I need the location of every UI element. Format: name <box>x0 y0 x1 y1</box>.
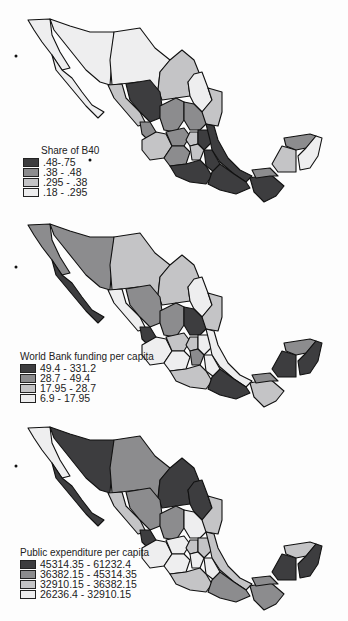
legend-swatch <box>23 158 39 167</box>
legend-swatch <box>20 374 36 383</box>
state-zacatecas <box>160 303 184 337</box>
legend-title: Public expenditure per capita <box>20 548 149 558</box>
legend-swatch <box>20 384 36 393</box>
legend-swatch <box>23 168 39 177</box>
state-zacatecas <box>160 98 184 132</box>
legend-swatch <box>20 560 36 569</box>
legend-label: .18 - .295 <box>43 187 87 197</box>
legend: Public expenditure per capita 45314.35 -… <box>20 548 149 599</box>
state-tabasco <box>252 373 278 383</box>
state-campeche <box>272 554 296 580</box>
state-tabasco <box>252 168 278 178</box>
legend-label: 26236.4 - 32910.15 <box>40 589 131 599</box>
legend-title: World Bank funding per capita <box>20 352 154 362</box>
map-panel-share-b40: Share of B40 .48-.75 .38 - .48 .295 - .3… <box>0 0 348 207</box>
legend-swatch <box>23 188 39 197</box>
legend-swatch <box>20 580 36 589</box>
state-chiapas <box>250 379 284 407</box>
state-campeche <box>272 146 296 172</box>
legend-swatch <box>20 394 36 403</box>
legend-label: 6.9 - 17.95 <box>40 393 90 403</box>
state-tabasco <box>252 576 278 586</box>
legend-item: .18 - .295 <box>23 187 99 197</box>
map-panel-world-bank-funding: World Bank funding per capita 49.4 - 331… <box>0 207 348 414</box>
legend-swatch <box>20 364 36 373</box>
state-campeche <box>272 351 296 377</box>
legend: World Bank funding per capita 49.4 - 331… <box>20 352 154 403</box>
map-panel-public-expenditure: Public expenditure per capita 45314.35 -… <box>0 414 348 621</box>
state-zacatecas <box>160 506 184 540</box>
state-chiapas <box>250 582 284 610</box>
legend-item: 6.9 - 17.95 <box>20 393 154 403</box>
legend-item: 26236.4 - 32910.15 <box>20 589 149 599</box>
legend-title: Share of B40 <box>41 146 99 156</box>
state-chiapas <box>250 174 284 202</box>
legend-swatch <box>23 178 39 187</box>
legend-swatch <box>20 570 36 579</box>
legend: Share of B40 .48-.75 .38 - .48 .295 - .3… <box>23 146 99 197</box>
legend-swatch <box>20 590 36 599</box>
